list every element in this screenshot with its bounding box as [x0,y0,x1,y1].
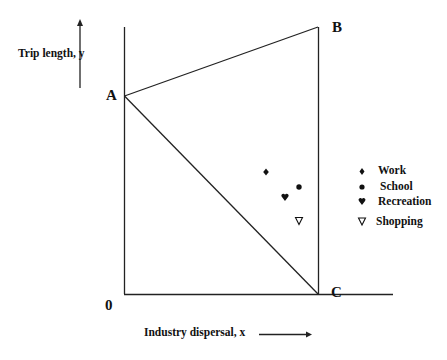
x-axis-title: Industry dispersal, x [144,326,245,338]
point-label-b: B [332,19,342,36]
legend-item-shopping: Shopping [376,215,423,227]
x-arrowhead-icon [306,332,312,338]
line-a-b [125,27,319,96]
y-arrowhead-icon [77,19,83,26]
legend-heart-icon [359,198,366,205]
marker-school-circle-icon [296,184,301,189]
point-label-c: C [331,284,342,301]
marker-work-diamond-icon [263,169,269,176]
legend-item-school: School [380,180,413,192]
point-label-a: A [106,87,117,104]
marker-shopping-triangle-icon [296,218,303,225]
legend-item-recreation: Recreation [378,195,431,207]
legend-item-work: Work [378,164,406,176]
origin-label: 0 [105,297,113,314]
legend-diamond-icon [360,168,365,175]
legend-circle-icon [359,184,364,189]
marker-recreation-heart-icon [281,194,288,201]
y-axis-title: Trip length, y [18,47,85,59]
legend-triangle-icon [359,218,366,225]
line-a-c [125,96,319,294]
